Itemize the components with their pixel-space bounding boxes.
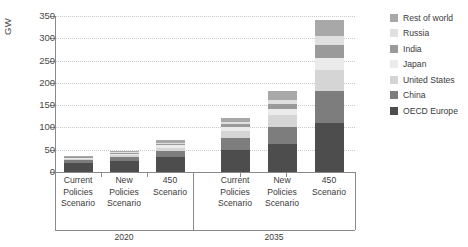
y-tick-label: 200 bbox=[21, 77, 55, 88]
y-axis-title: GW bbox=[2, 18, 16, 35]
legend-swatch-icon bbox=[390, 14, 398, 22]
bar-segment bbox=[315, 58, 344, 70]
chart-legend: Rest of worldRussiaIndiaJapanUnited Stat… bbox=[390, 10, 468, 119]
legend-swatch-icon bbox=[390, 45, 398, 53]
group-divider bbox=[193, 172, 194, 230]
legend-label: Japan bbox=[403, 59, 426, 69]
bar-stack bbox=[156, 140, 185, 172]
bar-stack bbox=[64, 156, 93, 172]
category-label-line: 450 bbox=[299, 175, 359, 187]
bar-segment bbox=[221, 131, 250, 138]
bar-segment bbox=[268, 144, 297, 172]
legend-item[interactable]: China bbox=[390, 88, 468, 104]
group-label: 2035 bbox=[193, 232, 355, 242]
legend-item[interactable]: Japan bbox=[390, 57, 468, 73]
bar-segment bbox=[315, 91, 344, 123]
category-label: 450Scenario bbox=[140, 175, 200, 198]
group-baseline bbox=[193, 230, 355, 231]
bar-segment bbox=[64, 163, 93, 172]
bar-segment bbox=[315, 36, 344, 45]
group-divider bbox=[355, 172, 356, 230]
y-tick-label: 250 bbox=[21, 55, 55, 66]
legend-label: India bbox=[403, 44, 422, 54]
legend-item[interactable]: Russia bbox=[390, 26, 468, 42]
bar-series-container bbox=[55, 16, 355, 172]
legend-label: OECD Europe bbox=[403, 106, 458, 116]
bar-stack bbox=[110, 151, 139, 172]
bar-stack bbox=[268, 91, 297, 172]
group-divider bbox=[55, 172, 56, 230]
bar-segment bbox=[315, 123, 344, 172]
bar-segment bbox=[268, 91, 297, 99]
bar-segment bbox=[110, 161, 139, 172]
legend-swatch-icon bbox=[390, 76, 398, 84]
legend-swatch-icon bbox=[390, 107, 398, 115]
bar-segment bbox=[221, 138, 250, 150]
legend-item[interactable]: United States bbox=[390, 72, 468, 88]
bar-segment bbox=[268, 127, 297, 145]
category-label-line: Scenario bbox=[140, 187, 200, 199]
y-tick-label: 100 bbox=[21, 121, 55, 132]
bar-segment bbox=[268, 115, 297, 127]
legend-label: United States bbox=[403, 75, 455, 85]
bar-stack bbox=[315, 20, 344, 172]
legend-swatch-icon bbox=[390, 60, 398, 68]
y-tick-label: 300 bbox=[21, 32, 55, 43]
chart-root: GW 050100150200250300350 CurrentPolicies… bbox=[0, 0, 468, 247]
category-label: 450Scenario bbox=[299, 175, 359, 198]
y-tick-label: 350 bbox=[21, 10, 55, 21]
group-baseline bbox=[55, 230, 193, 231]
bar-segment bbox=[221, 150, 250, 172]
legend-item[interactable]: Rest of world bbox=[390, 10, 468, 26]
legend-item[interactable]: OECD Europe bbox=[390, 103, 468, 119]
bar-segment bbox=[315, 45, 344, 58]
category-label-line: Scenario bbox=[94, 198, 154, 210]
bar-segment bbox=[315, 20, 344, 36]
legend-swatch-icon bbox=[390, 91, 398, 99]
bar-segment bbox=[156, 157, 185, 172]
category-label-line: Scenario bbox=[299, 187, 359, 199]
legend-label: China bbox=[403, 90, 425, 100]
legend-swatch-icon bbox=[390, 29, 398, 37]
group-label: 2020 bbox=[55, 232, 193, 242]
legend-label: Russia bbox=[403, 28, 429, 38]
category-labels: CurrentPoliciesScenarioNewPoliciesScenar… bbox=[55, 175, 355, 225]
category-label-line: Scenario bbox=[252, 198, 312, 210]
category-label-line: 450 bbox=[140, 175, 200, 187]
legend-item[interactable]: India bbox=[390, 41, 468, 57]
y-tick-label: 50 bbox=[21, 144, 55, 155]
legend-label: Rest of world bbox=[403, 13, 453, 23]
bar-segment bbox=[315, 70, 344, 91]
bar-stack bbox=[221, 118, 250, 172]
y-tick-label: 150 bbox=[21, 99, 55, 110]
